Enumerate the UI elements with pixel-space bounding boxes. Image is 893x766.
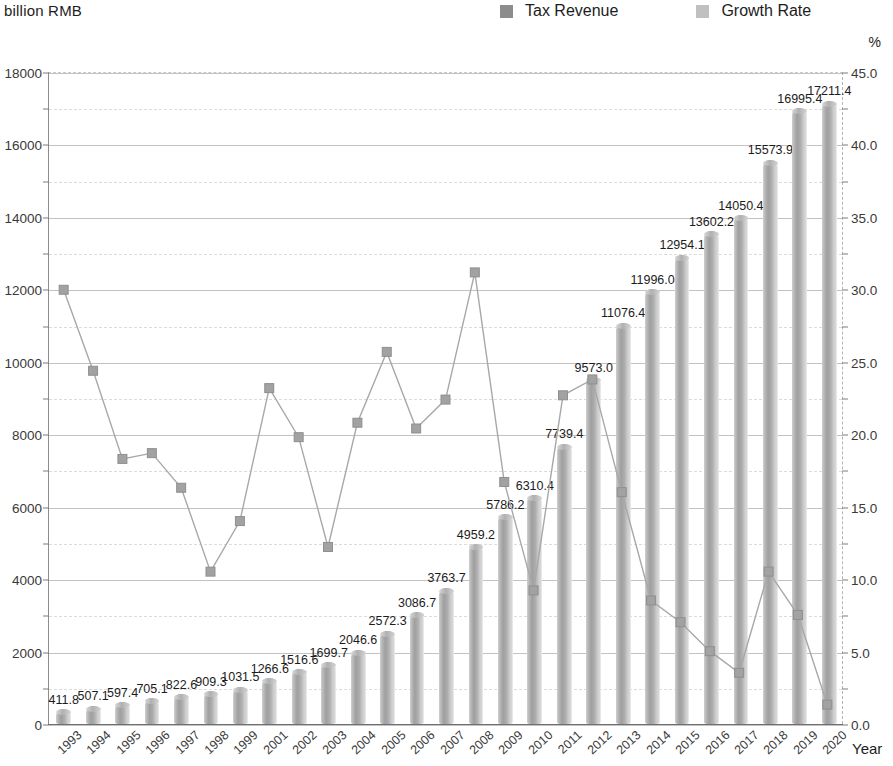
- bar-2003[interactable]: 1699.7: [321, 662, 336, 724]
- bar-series: 411.8507.1597.4705.1822.6909.31031.51266…: [49, 73, 842, 724]
- bar-2006[interactable]: 3086.7: [410, 612, 425, 724]
- legend-label: Growth Rate: [721, 2, 811, 20]
- y-axis-right-tick-label: 30.0: [851, 283, 877, 298]
- bar-value-label: 5786.2: [486, 499, 524, 512]
- bar-2013[interactable]: 11076.4: [616, 323, 631, 724]
- x-tick-1999: 1999: [231, 728, 261, 757]
- x-tick-2011: 2011: [556, 728, 585, 757]
- bar-value-label: 3763.7: [427, 572, 465, 585]
- bar-value-label: 4959.2: [457, 529, 495, 542]
- y-axis-right-tickmark: [842, 688, 848, 689]
- y-axis-right-tick-label: 20.0: [851, 428, 877, 443]
- legend-swatch-icon: [696, 5, 709, 18]
- bar-shape: [233, 687, 248, 724]
- y-axis-right-tickmark: [842, 109, 848, 110]
- x-tick-2012: 2012: [584, 728, 614, 757]
- bar-2016[interactable]: 13602.2: [704, 231, 719, 724]
- bar-shape: [145, 698, 160, 724]
- bar-shape: [498, 514, 513, 724]
- bar-2017[interactable]: 14050.4: [734, 215, 749, 724]
- y-axis-left-tick-label: 12000: [4, 283, 42, 298]
- x-tick-2019: 2019: [790, 728, 820, 757]
- legend-swatch-icon: [500, 5, 513, 18]
- legend-item-growth-rate[interactable]: Growth Rate: [696, 2, 811, 20]
- x-axis-tick-labels: 1993199419951996199719981999200120022003…: [48, 728, 843, 766]
- bar-value-label: 15573.9: [748, 144, 793, 157]
- y-axis-right-tickmark: [842, 217, 848, 218]
- x-tick-2013: 2013: [614, 728, 644, 757]
- x-tick-1997: 1997: [172, 728, 202, 757]
- bar-2019[interactable]: 16995.4: [792, 108, 807, 724]
- y-axis-left-tick-label: 8000: [12, 428, 42, 443]
- x-axis-title: Year: [852, 740, 882, 757]
- x-tick-2015: 2015: [673, 728, 703, 757]
- y-axis-right-tick-label: 10.0: [851, 573, 877, 588]
- bar-shape: [56, 709, 71, 724]
- bar-2004[interactable]: 2046.6: [351, 650, 366, 724]
- x-tick-2004: 2004: [349, 728, 379, 757]
- bar-2020[interactable]: 17211.4: [822, 101, 837, 724]
- bar-2005[interactable]: 2572.3: [380, 631, 395, 724]
- y-axis-left-tick-label: 14000: [4, 210, 42, 225]
- x-tick-2001: 2001: [260, 728, 290, 757]
- y-axis-right-tick-label: 0.0: [851, 718, 870, 733]
- x-tick-2010: 2010: [525, 728, 555, 757]
- bar-shape: [586, 377, 601, 724]
- bar-value-label: 14050.4: [718, 200, 763, 213]
- bar-1998[interactable]: 909.3: [204, 691, 219, 724]
- bar-value-label: 11996.0: [630, 274, 674, 287]
- y-axis-right-tickmark: [842, 399, 848, 400]
- bar-shape: [734, 215, 749, 724]
- y-axis-right-tickmark: [842, 254, 848, 255]
- bar-2018[interactable]: 15573.9: [763, 160, 778, 724]
- bar-1999[interactable]: 1031.5: [233, 687, 248, 724]
- y-axis-right-tickmark: [842, 543, 848, 544]
- y-axis-right-tickmark: [842, 145, 848, 146]
- bar-value-label: 13602.2: [689, 216, 734, 229]
- x-tick-1993: 1993: [54, 728, 84, 757]
- bar-shape: [822, 101, 837, 724]
- bar-2012[interactable]: 9573.0: [586, 377, 601, 724]
- bar-value-label: 3086.7: [398, 597, 436, 610]
- bar-shape: [262, 678, 277, 724]
- bar-shape: [86, 706, 101, 724]
- bar-shape: [527, 495, 542, 724]
- bar-1993[interactable]: 411.8: [56, 709, 71, 724]
- y-axis-left-tick-label: 10000: [4, 355, 42, 370]
- bar-2007[interactable]: 3763.7: [439, 588, 454, 724]
- bar-2002[interactable]: 1516.6: [292, 669, 307, 724]
- bar-2008[interactable]: 4959.2: [469, 544, 484, 724]
- tax-revenue-growth-chart: billion RMB % Tax RevenueGrowth Rate 00.…: [0, 0, 893, 766]
- bar-2015[interactable]: 12954.1: [675, 255, 690, 724]
- x-tick-2018: 2018: [761, 728, 791, 757]
- bar-2011[interactable]: 7739.4: [557, 444, 572, 724]
- bar-shape: [115, 702, 130, 724]
- x-tick-1995: 1995: [113, 728, 143, 757]
- y-axis-right-tickmark: [842, 362, 848, 363]
- y-axis-left-tick-label: 6000: [12, 500, 42, 515]
- y-axis-right-tickmark: [842, 580, 848, 581]
- bar-shape: [469, 544, 484, 724]
- bar-1997[interactable]: 822.6: [174, 694, 189, 724]
- y-axis-left-tick-label: 0: [34, 718, 42, 733]
- bar-1996[interactable]: 705.1: [145, 698, 160, 724]
- bar-2010[interactable]: 6310.4: [527, 495, 542, 724]
- bar-value-label: 507.1: [78, 690, 109, 703]
- y-axis-right-tick-label: 15.0: [851, 500, 877, 515]
- bar-value-label: 11076.4: [601, 307, 645, 320]
- bar-shape: [763, 160, 778, 724]
- y-axis-right-tick-label: 45.0: [851, 66, 877, 81]
- x-tick-2009: 2009: [496, 728, 526, 757]
- bar-1995[interactable]: 597.4: [115, 702, 130, 724]
- x-tick-2007: 2007: [437, 728, 467, 757]
- bar-2009[interactable]: 5786.2: [498, 514, 513, 724]
- bar-2001[interactable]: 1266.6: [262, 678, 277, 724]
- bar-value-label: 2046.6: [339, 634, 377, 647]
- bar-shape: [321, 662, 336, 724]
- y-axis-right-tickmark: [842, 73, 848, 74]
- bar-1994[interactable]: 507.1: [86, 706, 101, 724]
- legend-item-tax-revenue[interactable]: Tax Revenue: [500, 2, 618, 20]
- y-axis-right-tickmark: [842, 616, 848, 617]
- bar-2014[interactable]: 11996.0: [645, 289, 660, 724]
- bar-value-label: 17211.4: [807, 85, 851, 98]
